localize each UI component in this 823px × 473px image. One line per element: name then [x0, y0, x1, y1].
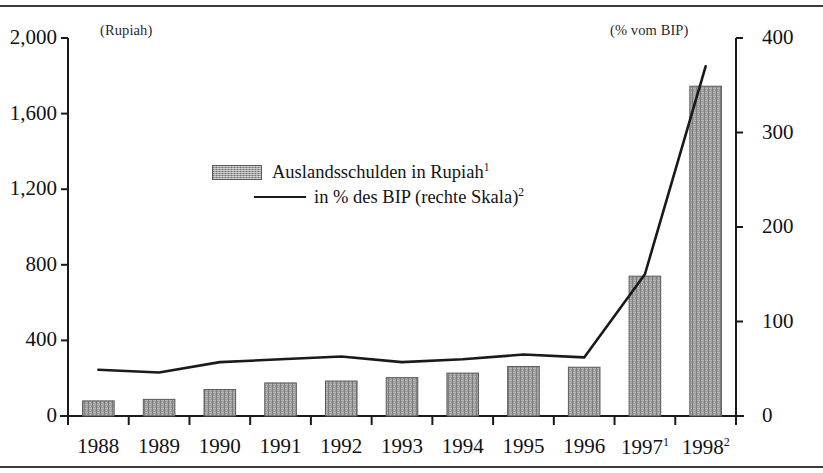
bar-swatch-icon [212, 165, 262, 180]
bar [265, 383, 297, 416]
legend-item-bars: Auslandsschulden in Rupiah1 [212, 160, 524, 184]
left-tick-label: 800 [26, 254, 58, 275]
left-tick-label: 0 [47, 405, 58, 426]
right-tick-label: 300 [762, 122, 794, 143]
chart-canvas [0, 0, 823, 473]
bar [568, 367, 600, 416]
x-tick-label: 1992 [320, 436, 362, 457]
x-tick-label: 1996 [563, 436, 605, 457]
line-swatch-icon [254, 196, 306, 198]
x-tick-label: 1994 [442, 436, 484, 457]
line-series [98, 66, 705, 372]
x-tick-label: 1988 [77, 436, 119, 457]
bar [386, 378, 418, 416]
x-tick-label: 19971 [621, 436, 669, 458]
left-tick-label: 400 [26, 329, 58, 350]
right-tick-label: 200 [762, 216, 794, 237]
right-tick-label: 100 [762, 311, 794, 332]
bar [325, 381, 357, 416]
x-tick-label: 1995 [502, 436, 544, 457]
x-tick-label: 19982 [682, 436, 730, 458]
left-tick-label: 2,000 [10, 27, 57, 48]
bar [629, 276, 661, 416]
chart-legend: Auslandsschulden in Rupiah1 in % des BIP… [212, 160, 524, 210]
right-tick-label: 0 [762, 405, 773, 426]
legend-label-line: in % des BIP (rechte Skala)2 [314, 186, 524, 208]
line-path [98, 66, 705, 372]
bar [143, 399, 175, 416]
right-tick-label: 400 [762, 27, 794, 48]
x-tick-label: 1993 [381, 436, 423, 457]
bar [690, 86, 722, 416]
bar-series [83, 86, 722, 416]
bar [83, 401, 115, 416]
left-tick-label: 1,200 [10, 178, 57, 199]
bar [204, 390, 236, 416]
left-tick-label: 1,600 [10, 103, 57, 124]
bar [508, 366, 540, 416]
legend-label-bars: Auslandsschulden in Rupiah1 [272, 161, 489, 183]
x-tick-label: 1990 [199, 436, 241, 457]
x-tick-label: 1989 [138, 436, 180, 457]
x-tick-label: 1991 [260, 436, 302, 457]
legend-item-line: in % des BIP (rechte Skala)2 [212, 184, 524, 210]
bar [447, 373, 479, 416]
